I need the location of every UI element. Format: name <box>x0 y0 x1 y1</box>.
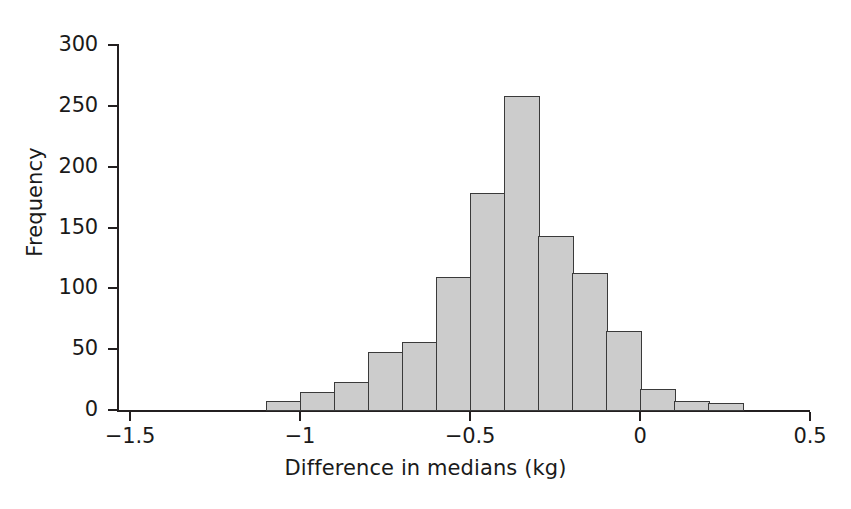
y-tick-mark <box>108 44 117 46</box>
histogram-bar <box>674 401 710 411</box>
histogram-bar <box>368 352 404 411</box>
histogram-bar <box>470 193 506 411</box>
histogram-bar <box>300 392 336 411</box>
x-tick-mark <box>469 412 471 421</box>
y-tick-mark <box>108 166 117 168</box>
x-tick-label: 0.5 <box>765 424 851 448</box>
x-tick-mark <box>809 412 811 421</box>
y-tick-label: 250 <box>38 95 98 116</box>
histogram-bar <box>640 389 676 411</box>
histogram-bar <box>572 273 608 411</box>
histogram-figure: 050100150200250300 −1.5−1−0.500.5 Freque… <box>0 0 851 509</box>
y-tick-label: 50 <box>38 338 98 359</box>
y-axis-line <box>117 44 119 412</box>
y-tick-mark <box>108 409 117 411</box>
y-tick-mark <box>108 348 117 350</box>
plot-area: 050100150200250300 −1.5−1−0.500.5 <box>0 0 851 509</box>
y-tick-label: 200 <box>38 156 98 177</box>
histogram-bar <box>538 236 574 411</box>
y-axis-title: Frequency <box>23 112 47 292</box>
y-tick-mark <box>108 227 117 229</box>
x-tick-mark <box>129 412 131 421</box>
y-tick-label: 100 <box>38 277 98 298</box>
y-tick-mark <box>108 287 117 289</box>
histogram-bar <box>504 96 540 411</box>
x-tick-label: −0.5 <box>425 424 515 448</box>
histogram-bar <box>606 331 642 411</box>
histogram-bar <box>708 403 744 411</box>
histogram-bar <box>436 277 472 411</box>
x-tick-mark <box>299 412 301 421</box>
x-tick-label: −1.5 <box>85 424 175 448</box>
histogram-bar <box>334 382 370 411</box>
x-tick-label: −1 <box>255 424 345 448</box>
y-tick-label: 0 <box>38 399 98 420</box>
x-tick-label: 0 <box>595 424 685 448</box>
histogram-bar <box>402 342 438 411</box>
y-tick-label: 150 <box>38 217 98 238</box>
x-tick-mark <box>639 412 641 421</box>
y-tick-mark <box>108 105 117 107</box>
x-axis-title: Difference in medians (kg) <box>0 456 851 480</box>
histogram-bar <box>266 401 302 411</box>
y-tick-label: 300 <box>38 34 98 55</box>
